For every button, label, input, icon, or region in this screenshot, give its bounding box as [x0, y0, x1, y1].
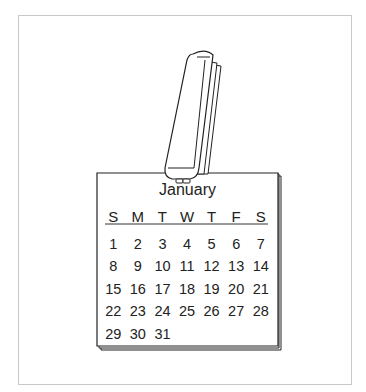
day-cell: 27: [224, 303, 249, 319]
day-cell: 11: [175, 258, 200, 274]
day-cell: 20: [224, 281, 249, 297]
day-cell: 28: [248, 303, 273, 319]
day-cell: 14: [248, 258, 273, 274]
weekday-label: F: [224, 208, 249, 225]
week-row: 8 9 10 11 12 13 14: [101, 255, 273, 278]
day-cell: 6: [224, 236, 249, 252]
week-row: 29 30 31: [101, 323, 273, 346]
day-cell: 29: [101, 326, 126, 342]
weekday-header-row: S M T W T F S: [101, 205, 273, 228]
day-cell: 30: [126, 326, 151, 342]
day-cell: 17: [150, 281, 175, 297]
day-cell: 21: [248, 281, 273, 297]
day-cell: 16: [126, 281, 151, 297]
day-cell: 2: [126, 236, 151, 252]
weekday-label: T: [199, 208, 224, 225]
calendar-grid: S M T W T F S 1 2 3 4 5 6 7 8 9 10 11 12…: [101, 205, 273, 345]
day-cell: 19: [199, 281, 224, 297]
week-row: 15 16 17 18 19 20 21: [101, 278, 273, 301]
day-cell: 3: [150, 236, 175, 252]
binder-clip-icon: [165, 51, 221, 183]
day-cell: 18: [175, 281, 200, 297]
day-cell: 13: [224, 258, 249, 274]
day-cell: 22: [101, 303, 126, 319]
day-cell: 8: [101, 258, 126, 274]
day-cell: 9: [126, 258, 151, 274]
weekday-label: S: [248, 208, 273, 225]
day-cell: 7: [248, 236, 273, 252]
day-cell: 1: [101, 236, 126, 252]
day-cell: 5: [199, 236, 224, 252]
day-cell: 12: [199, 258, 224, 274]
day-cell: 23: [126, 303, 151, 319]
week-row: 22 23 24 25 26 27 28: [101, 300, 273, 323]
month-title: January: [97, 181, 278, 199]
weekday-label: M: [126, 208, 151, 225]
day-cell: 4: [175, 236, 200, 252]
day-cell: 31: [150, 326, 175, 342]
weekday-label: S: [101, 208, 126, 225]
weekday-label: W: [175, 208, 200, 225]
day-cell: 26: [199, 303, 224, 319]
day-cell: 15: [101, 281, 126, 297]
weekday-label: T: [150, 208, 175, 225]
day-cell: 24: [150, 303, 175, 319]
week-row: 1 2 3 4 5 6 7: [101, 233, 273, 256]
day-cell: 25: [175, 303, 200, 319]
day-cell: 10: [150, 258, 175, 274]
